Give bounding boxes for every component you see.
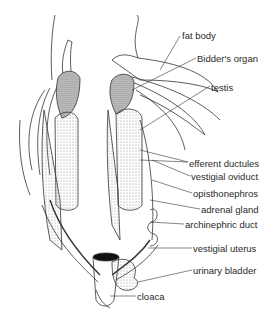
label-fat-body: fat body [182,31,216,41]
label-cloaca: cloaca [137,292,164,302]
label-efferent-ductules: efferent ductules [189,159,259,169]
label-urinary-bladder: urinary bladder [193,266,256,276]
label-vestigial-oviduct: vestigial oviduct [191,172,258,182]
label-testis: testis [211,83,233,93]
label-archinephric-duct: archinephric duct [185,220,257,230]
label-opisthonephros: opisthonephros [193,189,258,199]
label-bidders-organ: Bidder's organ [197,54,258,64]
label-adrenal-gland: adrenal gland [201,205,259,215]
label-vestigial-uterus: vestigial uterus [193,244,256,254]
